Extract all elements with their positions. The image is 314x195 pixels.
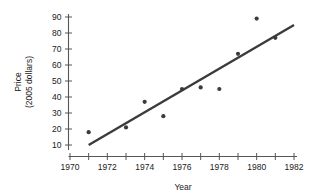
- data-point-1974: [143, 100, 147, 104]
- chart-canvas: 102030405060708090 197019721974197619781…: [0, 0, 314, 195]
- x-tick-label-1972: 1972: [98, 162, 117, 172]
- data-point-1981: [273, 36, 277, 40]
- x-tick-label-1970: 1970: [61, 162, 80, 172]
- y-tick-label-70: 70: [52, 44, 62, 54]
- data-point-1977: [199, 85, 203, 89]
- data-point-1971: [87, 130, 91, 134]
- chart-background: [0, 0, 314, 195]
- y-tick-label-60: 60: [52, 60, 62, 70]
- y-tick-label-10: 10: [52, 140, 62, 150]
- x-tick-label-1974: 1974: [135, 162, 154, 172]
- y-tick-label-30: 30: [52, 108, 62, 118]
- data-point-1976: [180, 87, 184, 91]
- x-tick-label-1978: 1978: [210, 162, 229, 172]
- data-point-1979: [236, 52, 240, 56]
- data-point-1973: [124, 125, 128, 129]
- y-axis-title-line2: (2005 dollars): [24, 56, 34, 108]
- y-tick-label-80: 80: [52, 28, 62, 38]
- y-tick-label-40: 40: [52, 92, 62, 102]
- y-tick-label-50: 50: [52, 76, 62, 86]
- y-axis-title-line1: Price: [13, 72, 23, 92]
- scatter-chart: 102030405060708090 197019721974197619781…: [0, 0, 314, 195]
- data-point-1980: [255, 17, 259, 21]
- y-tick-label-20: 20: [52, 124, 62, 134]
- x-tick-label-1980: 1980: [247, 162, 266, 172]
- y-axis-tick-labels: 102030405060708090: [52, 12, 62, 150]
- y-tick-label-90: 90: [52, 12, 62, 22]
- data-point-1975: [161, 114, 165, 118]
- x-axis-title: Year: [174, 182, 191, 192]
- x-tick-label-1982: 1982: [285, 162, 304, 172]
- data-point-1978: [217, 87, 221, 91]
- x-tick-label-1976: 1976: [173, 162, 192, 172]
